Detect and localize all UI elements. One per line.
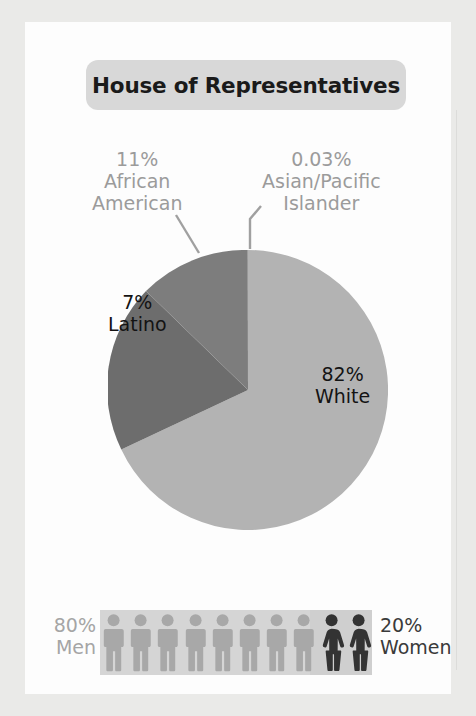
pie-label-asian-line1: Asian/Pacific xyxy=(262,170,381,192)
gender-pictogram-band xyxy=(100,610,372,675)
pictogram-man[interactable] xyxy=(209,610,236,675)
pie-label-latino: 7% Latino xyxy=(108,291,167,335)
pie-label-african-american: 11% African American xyxy=(92,148,182,214)
gender-men-pct: 80% xyxy=(28,614,96,636)
pie-label-white-pct: 82% xyxy=(315,363,370,385)
pie-label-asian-line2: Islander xyxy=(262,192,381,214)
chart-title-pill: House of Representatives xyxy=(86,60,406,110)
pie-label-african-american-pct: 11% xyxy=(92,148,182,170)
female-figure-icon xyxy=(318,613,345,673)
pictogram-man[interactable] xyxy=(290,610,317,675)
male-figure-icon xyxy=(290,613,317,673)
pie-label-african-american-line2: American xyxy=(92,192,182,214)
male-figure-icon xyxy=(127,613,154,673)
gender-women-label: 20% Women xyxy=(380,614,472,658)
male-figure-icon xyxy=(263,613,290,673)
gender-men-label: 80% Men xyxy=(28,614,96,658)
pie-label-african-american-line1: African xyxy=(92,170,182,192)
page-divider-rule xyxy=(456,110,457,670)
pictogram-man[interactable] xyxy=(236,610,263,675)
pictogram-man[interactable] xyxy=(182,610,209,675)
pictogram-woman[interactable] xyxy=(345,610,372,675)
gender-women-name: Women xyxy=(380,636,472,658)
male-figure-icon xyxy=(100,613,127,673)
page-title: House of Representatives xyxy=(92,73,400,98)
pie-label-white: 82% White xyxy=(315,363,370,407)
male-figure-icon xyxy=(209,613,236,673)
pie-label-asian-pacific-islander: 0.03% Asian/Pacific Islander xyxy=(262,148,381,214)
pictogram-man[interactable] xyxy=(154,610,181,675)
pictogram-man[interactable] xyxy=(127,610,154,675)
pictogram-woman[interactable] xyxy=(318,610,345,675)
pie-label-white-name: White xyxy=(315,385,370,407)
gender-women-pct: 20% xyxy=(380,614,472,636)
pie-label-asian-pct: 0.03% xyxy=(262,148,381,170)
gender-men-name: Men xyxy=(28,636,96,658)
pie-label-latino-name: Latino xyxy=(108,313,167,335)
female-figure-icon xyxy=(345,613,372,673)
pictogram-man[interactable] xyxy=(100,610,127,675)
male-figure-icon xyxy=(236,613,263,673)
infographic-panel: House of Representatives 11% African Ame… xyxy=(0,0,476,716)
pie-label-latino-pct: 7% xyxy=(108,291,167,313)
male-figure-icon xyxy=(154,613,181,673)
pictogram-man[interactable] xyxy=(263,610,290,675)
male-figure-icon xyxy=(182,613,209,673)
